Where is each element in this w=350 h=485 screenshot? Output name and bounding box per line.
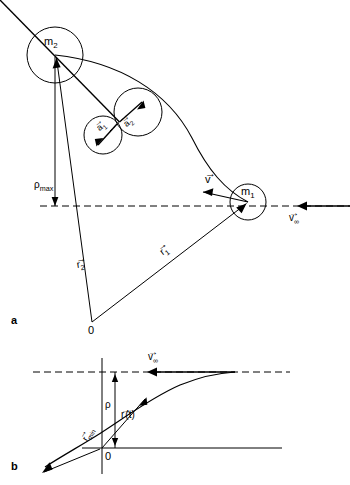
vector-arrow-accent: → — [121, 405, 124, 415]
vector-r-min-line — [44, 449, 100, 472]
label-r2: →r2 — [76, 259, 85, 272]
label-velocity-infinity-panel-a: →v∞ — [289, 213, 299, 225]
rho-max-arrowhead — [52, 197, 59, 206]
trajectory-curve-panel-a — [55, 55, 248, 202]
vector-r1-arrowhead — [236, 204, 246, 214]
panel-letter-b: b — [11, 461, 18, 472]
vector-a1-arrowhead — [95, 138, 103, 147]
vector-r2-line — [57, 58, 93, 322]
rho-arrowhead-top — [112, 374, 118, 382]
label-rho-max: ρmax — [34, 180, 53, 192]
label-mass1: m1 — [241, 186, 255, 200]
label-velocity-infinity-panel-b: →v∞ — [148, 352, 158, 364]
vector-r-of-t-arrowhead — [139, 397, 147, 406]
panel-b-graphics — [33, 358, 290, 474]
vector-arrow-accent: → — [205, 168, 211, 179]
v-infinity-arrowhead-panel-b — [147, 368, 157, 377]
vector-arrow-accent: → — [75, 254, 80, 264]
label-rho-panel-b: ρ — [105, 400, 111, 410]
panel-letter-a: a — [11, 315, 17, 326]
label-origin-panel-b: 0 — [105, 451, 111, 462]
label-mass2: m2 — [44, 36, 58, 50]
trajectory-curve-panel-b — [45, 372, 235, 467]
label-origin-panel-a: 0 — [88, 325, 94, 336]
physics-diagram — [0, 0, 350, 485]
vector-r2-arrowhead — [53, 58, 61, 68]
vector-v-arrowhead — [203, 188, 213, 196]
label-r-of-t: →r(t) — [121, 410, 135, 420]
vector-r1-line — [92, 204, 247, 323]
label-velocity-v: →v — [205, 174, 211, 185]
rho-arrowhead-bottom — [112, 438, 118, 446]
vector-a2-line — [0, 0, 120, 122]
vector-arrow-accent: → — [289, 208, 294, 218]
vector-arrow-accent: → — [148, 347, 153, 357]
